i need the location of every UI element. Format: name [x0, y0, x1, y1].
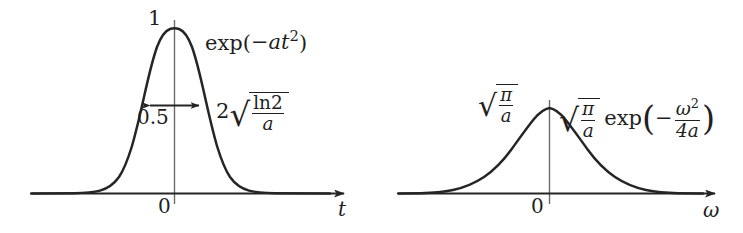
close-paren: ) [702, 102, 715, 136]
fwhm-denominator: a [252, 114, 284, 133]
radicand: π a [578, 98, 600, 140]
omega-symbol: ω [676, 98, 691, 119]
close-paren: ) [299, 33, 307, 54]
peak-amplitude-label: √ π a [478, 84, 518, 125]
exponent-denominator: 4a [675, 121, 700, 140]
fourier-transform-pair-figure: 1 exp(−at2) 0.5 2 √ ln2 a 0 t [0, 0, 743, 233]
time-domain-plot [0, 0, 371, 233]
open-paren: ( [642, 102, 655, 136]
frequency-function-label: √ π a exp(− ω2 4a ) [559, 98, 715, 140]
fwhm-radical: √ ln2 a [229, 92, 288, 134]
open-paren: ( [243, 33, 251, 54]
fwhm-numerator: ln2 [252, 94, 284, 114]
peak-amplitude-label: 1 [148, 8, 161, 29]
variable-t: t [281, 30, 289, 54]
peak-denominator: a [499, 106, 513, 125]
exponent-fraction: ω2 4a [673, 98, 702, 140]
radical-sign: √ [229, 99, 250, 132]
radicand: ln2 a [249, 92, 289, 134]
peak-radical: √ π a [478, 84, 518, 125]
peak-numerator: π [499, 86, 513, 106]
half-max-label: 0.5 [137, 107, 169, 127]
exp-operator: exp [205, 33, 243, 54]
x-axis-label: t [338, 199, 346, 219]
coefficient-a: a [269, 30, 282, 54]
fwhm-label: 2 √ ln2 a [216, 92, 289, 134]
radical-sign: √ [559, 105, 579, 137]
prefactor-denominator: a [581, 121, 595, 140]
radicand: π a [496, 84, 518, 125]
exponent-numerator: ω2 [675, 98, 700, 121]
radical-sign: √ [478, 91, 497, 121]
omega-power: 2 [691, 96, 699, 111]
origin-label: 0 [158, 196, 171, 216]
exp-operator: exp [604, 106, 642, 130]
time-domain-panel: 1 exp(−at2) 0.5 2 √ ln2 a 0 t [0, 0, 371, 233]
prefactor-radical: √ π a [559, 98, 600, 140]
fwhm-factor: 2 [216, 99, 229, 123]
fwhm-fraction: ln2 a [250, 94, 286, 134]
prefactor-fraction: π a [579, 100, 597, 140]
minus-sign: − [251, 30, 269, 54]
frequency-domain-panel: √ π a √ π a exp(− ω2 [371, 0, 743, 233]
exponent-two: 2 [290, 27, 299, 44]
x-axis-label: ω [703, 200, 719, 220]
minus-sign: − [655, 106, 673, 130]
prefactor-numerator: π [581, 100, 595, 120]
peak-fraction: π a [497, 86, 515, 125]
time-function-label: exp(−at2) [205, 29, 307, 54]
origin-label: 0 [531, 196, 544, 216]
